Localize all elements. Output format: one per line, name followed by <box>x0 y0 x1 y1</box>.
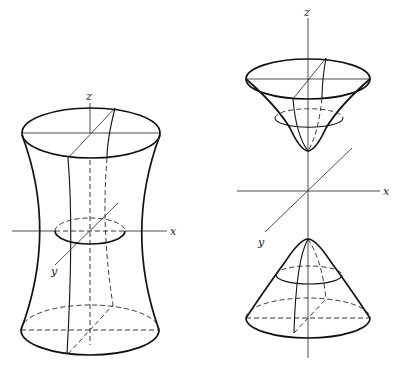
y-axis-label: y <box>50 265 58 278</box>
hyperboloid-two-sheets: z x y <box>237 6 390 358</box>
upper-meridian-front <box>293 99 308 151</box>
y-axis <box>265 148 352 232</box>
hyperboloid-one-sheet: z x y <box>12 90 177 355</box>
upper-meridian-back-visible <box>322 58 326 98</box>
lower-y-chord <box>294 299 326 333</box>
lower-meridian-back <box>308 239 326 299</box>
y-axis-label: y <box>257 236 265 249</box>
lower-meridian-front <box>294 239 308 333</box>
diagram-canvas: z x y z x <box>0 0 402 373</box>
lower-section-back <box>276 266 342 275</box>
x-axis-label: x <box>383 185 390 198</box>
y-axis <box>55 203 118 265</box>
bottom-ellipse-front <box>21 330 159 355</box>
x-axis-label: x <box>170 225 177 238</box>
back-meridian-hidden <box>105 158 113 305</box>
front-meridian <box>67 158 71 354</box>
z-axis-label: z <box>303 6 310 19</box>
upper-y-chord <box>293 58 326 99</box>
left-silhouette <box>21 135 40 330</box>
right-silhouette <box>142 135 160 330</box>
bottom-y-chord <box>68 305 113 354</box>
upper-meridian-back-hidden <box>308 98 322 151</box>
lower-section-front <box>276 275 342 284</box>
z-axis-label: z <box>85 90 92 103</box>
